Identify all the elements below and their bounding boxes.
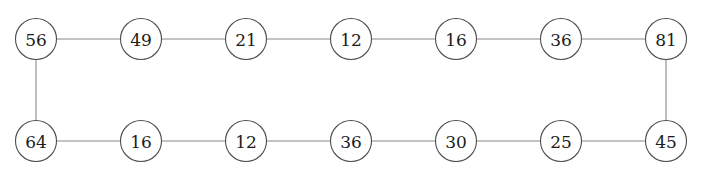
graph-node[interactable]: 64 [16,121,57,162]
node-label: 81 [655,30,677,50]
diagram-canvas: 5649211216368164161236302545 [0,0,704,170]
node-label: 36 [550,30,572,50]
node-label: 49 [130,30,152,50]
node-label: 12 [340,30,362,50]
graph-node[interactable]: 16 [436,19,477,60]
graph-node[interactable]: 45 [646,121,687,162]
graph-node[interactable]: 81 [646,19,687,60]
node-layer: 5649211216368164161236302545 [16,19,687,162]
graph-node[interactable]: 25 [541,121,582,162]
node-label: 16 [130,132,152,152]
node-label: 64 [25,132,47,152]
node-label: 45 [655,132,677,152]
graph-node[interactable]: 49 [121,19,162,60]
graph-node[interactable]: 56 [16,19,57,60]
node-label: 25 [550,132,572,152]
graph-node[interactable]: 12 [331,19,372,60]
graph-node[interactable]: 30 [436,121,477,162]
graph-node[interactable]: 12 [226,121,267,162]
graph-node[interactable]: 16 [121,121,162,162]
node-label: 16 [445,30,467,50]
node-label: 21 [235,30,257,50]
graph-node[interactable]: 36 [331,121,372,162]
node-label: 12 [235,132,257,152]
node-label: 30 [445,132,467,152]
graph-svg: 5649211216368164161236302545 [0,0,704,170]
graph-node[interactable]: 36 [541,19,582,60]
node-label: 56 [25,30,47,50]
graph-node[interactable]: 21 [226,19,267,60]
node-label: 36 [340,132,362,152]
